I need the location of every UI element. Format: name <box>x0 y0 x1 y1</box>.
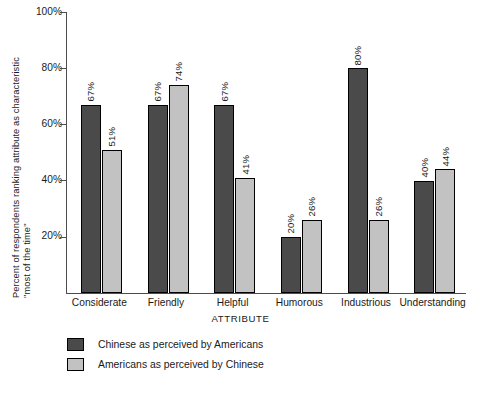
bar-industrious-series-2 <box>369 220 389 293</box>
plot-area: 67%51%67%74%67%41%20%26%80%26%40%44% <box>66 12 466 293</box>
bar-industrious-series-1 <box>348 68 368 293</box>
y-tick-label-40: 40% <box>22 175 62 185</box>
bar-value-label-humorous-series-2: 26% <box>308 197 318 217</box>
legend-swatch-dark-icon <box>67 338 84 351</box>
bar-value-label-helpful-series-2: 41% <box>241 155 251 175</box>
bar-understanding-series-2 <box>435 169 455 293</box>
x-axis-title: ATTRIBUTE <box>0 313 481 324</box>
legend-item-americans-as-perceived-by-chinese: Americans as perceived by Chinese <box>67 356 387 376</box>
bar-value-label-understanding-series-1: 40% <box>420 158 430 178</box>
x-tick-label-understanding: Understanding <box>391 297 474 309</box>
x-axis-line <box>66 293 466 294</box>
bar-value-label-humorous-series-1: 20% <box>287 214 297 234</box>
bar-friendly-series-1 <box>148 105 168 293</box>
bar-understanding-series-1 <box>414 181 434 293</box>
bar-value-label-considerate-series-1: 67% <box>87 82 97 102</box>
bar-value-label-industrious-series-1: 80% <box>353 45 363 65</box>
bar-helpful-series-1 <box>214 105 234 293</box>
bar-considerate-series-2 <box>102 150 122 293</box>
legend-item-chinese-as-perceived-by-americans: Chinese as perceived by Americans <box>67 336 387 356</box>
y-tick-label-60: 60% <box>22 119 62 129</box>
bar-value-label-industrious-series-2: 26% <box>374 197 384 217</box>
bar-value-label-considerate-series-2: 51% <box>108 127 118 147</box>
bar-value-label-understanding-series-2: 44% <box>441 147 451 167</box>
bar-humorous-series-2 <box>302 220 322 293</box>
bar-value-label-helpful-series-1: 67% <box>220 82 230 102</box>
bar-humorous-series-1 <box>281 237 301 293</box>
legend-swatch-light-icon <box>67 358 84 371</box>
bar-value-label-friendly-series-2: 74% <box>174 62 184 82</box>
legend-label-series-1: Chinese as perceived by Americans <box>98 336 263 353</box>
bar-considerate-series-1 <box>81 105 101 293</box>
legend-label-series-2: Americans as perceived by Chinese <box>98 356 264 373</box>
y-tick-label-80: 80% <box>22 63 62 73</box>
bar-chart-figure: Percent of respondents ranking attribute… <box>0 0 481 396</box>
y-axis-tick-labels: 100% 80% 60% 40% 20% <box>18 0 62 300</box>
y-tick-label-100: 100% <box>22 7 62 17</box>
bar-helpful-series-2 <box>235 178 255 293</box>
y-tick-label-20: 20% <box>22 231 62 241</box>
chart-legend: Chinese as perceived by Americans Americ… <box>67 336 387 376</box>
bar-friendly-series-2 <box>169 85 189 293</box>
bar-value-label-friendly-series-1: 67% <box>153 82 163 102</box>
cut-off-caption-sliver <box>8 389 468 395</box>
bars-layer: 67%51%67%74%67%41%20%26%80%26%40%44% <box>66 12 466 293</box>
